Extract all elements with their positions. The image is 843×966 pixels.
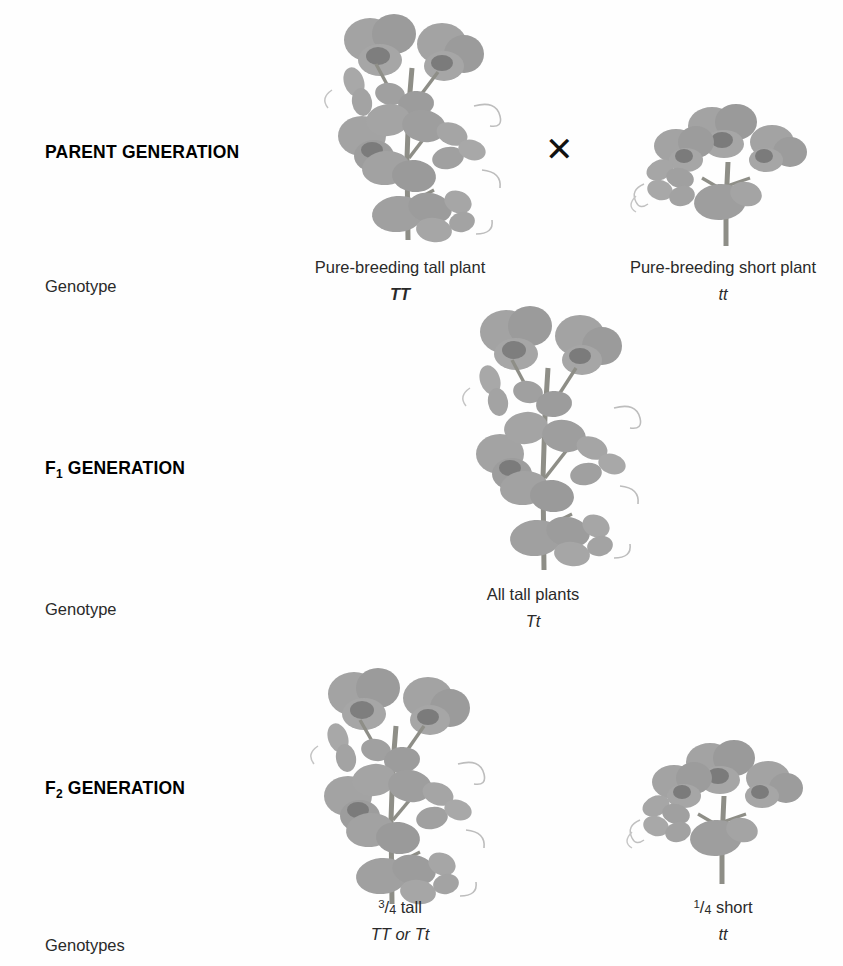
caption-short-parent: Pure-breeding short plant tt (630, 256, 816, 307)
plant-illustration-f2-short (620, 730, 820, 890)
caption-short-parent-genotype: tt (630, 283, 816, 306)
parent-genotype-side-label-text: Genotype (45, 277, 117, 295)
f1-heading-subscript: 1 (56, 467, 63, 481)
caption-f2-short: 1/4 short tt (693, 896, 752, 947)
caption-f1-genotype: Tt (487, 610, 580, 633)
f2-short-phenotype-word: short (711, 898, 752, 916)
f2-heading-base: F (45, 778, 56, 798)
cross-symbol-glyph: ✕ (545, 130, 573, 168)
genetics-diagram-page: PARENT GENERATION Genotype (0, 0, 843, 966)
f2-generation-heading: F2 GENERATION (45, 778, 185, 799)
caption-f1-phenotype: All tall plants (487, 583, 580, 606)
caption-f2-short-genotype: tt (693, 923, 752, 946)
cross-symbol: ✕ (545, 132, 573, 166)
f1-generation-heading: F1 GENERATION (45, 458, 185, 479)
f2-tall-phenotype-word: tall (396, 898, 422, 916)
plant-illustration-f2-tall (300, 660, 500, 910)
f2-genotypes-side-label: Genotypes (45, 936, 125, 955)
f1-genotype-side-label-text: Genotype (45, 600, 117, 618)
f1-heading-base: F (45, 458, 56, 478)
plant-illustration-tall-parent (312, 8, 512, 248)
caption-short-parent-phenotype: Pure-breeding short plant (630, 256, 816, 279)
plant-illustration-short-parent (620, 100, 820, 250)
f1-genotype-side-label: Genotype (45, 600, 117, 619)
f2-tall-fraction-denominator: 4 (389, 903, 396, 917)
caption-f2-short-phenotype: 1/4 short (693, 896, 752, 919)
f2-heading-subscript: 2 (56, 787, 63, 801)
caption-f2-tall-phenotype: 3/4 tall (371, 896, 430, 919)
f2-short-fraction-numerator: 1 (693, 898, 699, 910)
f1-heading-rest: GENERATION (63, 458, 185, 478)
caption-f2-tall-genotype: TT or Tt (371, 923, 430, 946)
caption-f2-tall: 3/4 tall TT or Tt (371, 896, 430, 947)
f2-tall-fraction-numerator: 3 (378, 898, 384, 910)
plant-illustration-f1 (448, 288, 648, 578)
f2-heading-rest: GENERATION (63, 778, 185, 798)
f2-short-fraction-denominator: 4 (704, 903, 711, 917)
caption-tall-parent-phenotype: Pure-breeding tall plant (315, 256, 486, 279)
caption-f1: All tall plants Tt (487, 583, 580, 634)
parent-genotype-side-label: Genotype (45, 277, 117, 296)
parent-generation-heading-text: PARENT GENERATION (45, 142, 239, 162)
f2-genotypes-side-label-text: Genotypes (45, 936, 125, 954)
parent-generation-heading: PARENT GENERATION (45, 142, 239, 163)
